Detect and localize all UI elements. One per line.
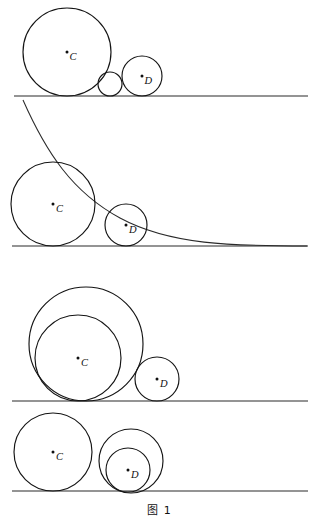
center-point-dot	[156, 378, 159, 381]
point-label-c: C	[56, 203, 64, 214]
center-point-dot	[52, 451, 55, 454]
point-label-d: D	[159, 378, 168, 389]
circle-d-outer	[99, 429, 163, 493]
center-point-dot	[127, 469, 130, 472]
center-point-dot	[125, 224, 128, 227]
figure-caption: 图 1	[0, 501, 319, 517]
point-label-d: D	[128, 224, 137, 235]
center-point-dot	[52, 203, 55, 206]
center-point-dot	[77, 357, 80, 360]
panel-2: CD	[11, 100, 308, 246]
tangent-curve	[23, 100, 307, 246]
panel-1: CD	[14, 8, 308, 96]
center-point-dot	[141, 75, 144, 78]
point-label-c: C	[81, 357, 89, 368]
figure-container: CDCDCDCD 图 1	[0, 0, 319, 530]
point-label-d: D	[130, 469, 139, 480]
point-label-d: D	[144, 75, 153, 86]
point-label-c: C	[70, 51, 78, 62]
panels-group: CDCDCDCD	[11, 8, 308, 493]
panel-4: CD	[12, 413, 308, 493]
panel-3: CD	[12, 287, 308, 401]
center-point-dot	[66, 51, 69, 54]
circle-small-tangent	[98, 72, 122, 96]
circle-outer	[29, 287, 143, 401]
figure-canvas: CDCDCDCD	[0, 0, 319, 530]
point-label-c: C	[56, 451, 64, 462]
